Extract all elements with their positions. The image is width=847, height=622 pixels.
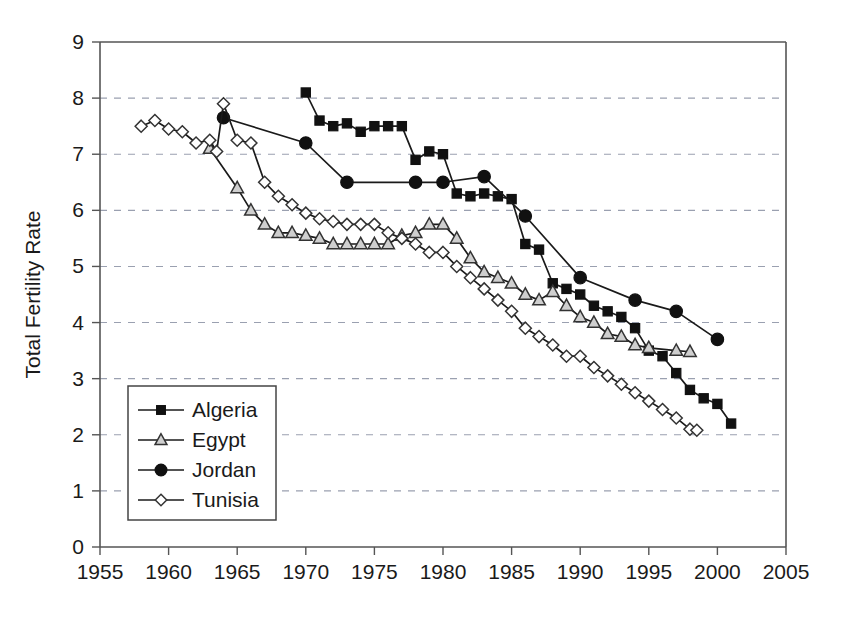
data-point-marker	[438, 150, 447, 159]
data-point-marker	[368, 237, 381, 248]
data-point-marker	[163, 123, 175, 135]
legend-label-jordan: Jordan	[192, 458, 256, 481]
data-point-marker	[384, 122, 393, 131]
x-tick-label-1965: 1965	[214, 560, 261, 583]
y-tick-label-9: 9	[72, 30, 84, 53]
data-point-marker	[315, 116, 324, 125]
data-point-marker	[478, 170, 490, 182]
data-point-marker	[286, 199, 298, 211]
y-tick-label-2: 2	[72, 423, 84, 446]
data-point-marker	[480, 189, 489, 198]
data-point-marker	[231, 134, 243, 146]
data-point-marker	[355, 218, 367, 230]
data-point-marker	[411, 155, 420, 164]
x-tick-label-1970: 1970	[282, 560, 329, 583]
data-point-marker	[327, 216, 339, 228]
data-point-marker	[245, 204, 258, 215]
data-point-marker	[519, 288, 532, 299]
data-point-marker	[314, 213, 326, 225]
data-point-marker	[382, 227, 394, 239]
data-point-marker	[300, 137, 312, 149]
data-point-marker	[629, 387, 641, 399]
data-point-marker	[699, 394, 708, 403]
data-series	[135, 88, 736, 436]
data-point-marker	[629, 338, 642, 349]
data-point-marker	[574, 271, 586, 283]
data-point-marker	[617, 312, 626, 321]
x-tick-label-2005: 2005	[763, 560, 810, 583]
chart-legend: AlgeriaEgyptJordanTunisia	[128, 386, 276, 520]
series-line-jordan	[223, 118, 717, 340]
data-point-marker	[409, 176, 421, 188]
x-tick-label-1995: 1995	[625, 560, 672, 583]
data-point-marker	[245, 137, 257, 149]
y-tick-label-6: 6	[72, 198, 84, 221]
data-point-marker	[521, 239, 530, 248]
data-point-marker	[534, 245, 543, 254]
data-point-marker	[711, 333, 723, 345]
data-point-marker	[354, 237, 367, 248]
data-point-marker	[410, 238, 422, 250]
x-tick-label-1985: 1985	[488, 560, 535, 583]
y-tick-label-1: 1	[72, 479, 84, 502]
data-point-marker	[204, 134, 216, 146]
data-point-marker	[685, 385, 694, 394]
series-line-algeria	[306, 93, 731, 424]
data-point-marker	[272, 226, 285, 237]
data-point-marker	[589, 301, 598, 310]
data-point-marker	[301, 88, 310, 97]
data-point-marker	[149, 115, 161, 127]
data-point-marker	[341, 218, 353, 230]
data-point-marker	[217, 98, 229, 110]
data-point-marker	[425, 147, 434, 156]
data-point-marker	[615, 378, 627, 390]
x-tick-label-1975: 1975	[351, 560, 398, 583]
series-algeria	[301, 88, 736, 428]
data-point-marker	[533, 331, 545, 343]
data-point-marker	[643, 395, 655, 407]
data-point-marker	[658, 352, 667, 361]
legend-marker-algeria	[157, 406, 166, 415]
y-tick-label-4: 4	[72, 311, 84, 334]
data-point-marker	[519, 210, 531, 222]
data-point-marker	[657, 404, 669, 416]
data-point-marker	[727, 419, 736, 428]
y-axis-title: Total Fertility Rate	[21, 210, 44, 378]
data-point-marker	[409, 226, 422, 237]
data-point-marker	[713, 399, 722, 408]
data-point-marker	[329, 122, 338, 131]
x-tick-label-2000: 2000	[694, 560, 741, 583]
legend-marker-jordan	[155, 464, 167, 476]
legend-label-egypt: Egypt	[192, 428, 246, 451]
chart-canvas: 0123456789195519601965197019751980198519…	[0, 0, 847, 622]
data-point-marker	[602, 370, 614, 382]
legend-label-tunisia: Tunisia	[192, 488, 259, 511]
series-markers-algeria	[301, 88, 736, 428]
data-point-marker	[437, 218, 450, 229]
data-point-marker	[135, 120, 147, 132]
data-point-marker	[368, 218, 380, 230]
series-line-tunisia	[141, 104, 697, 431]
y-tick-label-5: 5	[72, 254, 84, 277]
x-tick-label-1960: 1960	[145, 560, 192, 583]
data-point-marker	[672, 368, 681, 377]
data-point-marker	[630, 324, 639, 333]
data-point-marker	[341, 237, 354, 248]
fertility-rate-chart: 0123456789195519601965197019751980198519…	[0, 0, 847, 622]
data-point-marker	[286, 226, 299, 237]
data-point-marker	[341, 176, 353, 188]
data-point-marker	[670, 305, 682, 317]
data-point-marker	[342, 119, 351, 128]
data-point-marker	[574, 310, 587, 321]
data-point-marker	[423, 218, 436, 229]
data-point-marker	[562, 284, 571, 293]
data-point-marker	[300, 207, 312, 219]
y-tick-label-8: 8	[72, 86, 84, 109]
data-point-marker	[629, 294, 641, 306]
data-point-marker	[452, 189, 461, 198]
data-point-marker	[466, 192, 475, 201]
y-tick-label-7: 7	[72, 142, 84, 165]
data-point-marker	[370, 122, 379, 131]
y-tick-label-0: 0	[72, 535, 84, 558]
data-point-marker	[437, 176, 449, 188]
